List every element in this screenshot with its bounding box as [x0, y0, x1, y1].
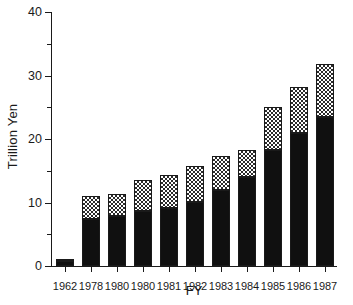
bar-segment-lower	[264, 150, 282, 266]
bar-segment-lower	[160, 208, 178, 266]
y-axis-tick-minor	[47, 171, 51, 172]
plot-area: 010203040 196219781980198019811982198319…	[51, 12, 337, 266]
bar-segment-lower	[134, 211, 152, 266]
bar-segment-lower	[186, 202, 204, 266]
bar-segment-upper	[56, 259, 74, 261]
y-axis-tick-major	[45, 12, 51, 13]
x-axis-tick	[273, 266, 274, 272]
bar-segment-lower	[212, 190, 230, 266]
x-axis-tick	[143, 266, 144, 272]
y-axis-tick-major	[45, 203, 51, 204]
y-axis-tick-label: 20	[28, 132, 42, 146]
chart-figure: Trillion Yen 010203040 19621978198019801…	[0, 0, 353, 305]
bar-segment-lower	[316, 117, 334, 266]
bar[interactable]	[56, 259, 74, 266]
y-axis-label: Trillion Yen	[0, 0, 26, 272]
bar[interactable]	[108, 194, 126, 266]
bar[interactable]	[212, 156, 230, 266]
x-axis-tick	[195, 266, 196, 272]
bar[interactable]	[134, 180, 152, 266]
bar-segment-lower	[82, 219, 100, 266]
y-axis-tick-label: 10	[28, 196, 42, 210]
bar-segment-upper	[134, 180, 152, 211]
bar-segment-lower	[290, 133, 308, 266]
y-axis-line	[51, 12, 52, 267]
y-axis-tick-major	[45, 266, 51, 267]
x-axis-tick	[247, 266, 248, 272]
y-axis-tick-major	[45, 76, 51, 77]
bar-segment-upper	[160, 175, 178, 207]
y-axis-tick-minor	[47, 107, 51, 108]
y-axis-tick-label: 0	[35, 259, 42, 273]
x-axis-tick	[325, 266, 326, 272]
x-axis-label: FY	[51, 283, 337, 298]
bar-segment-upper	[238, 150, 256, 177]
bar-segment-upper	[316, 64, 334, 117]
bar[interactable]	[316, 64, 334, 266]
x-axis-tick	[169, 266, 170, 272]
bar-segment-upper	[290, 87, 308, 133]
bar-segment-lower	[108, 216, 126, 266]
bar[interactable]	[160, 175, 178, 266]
bar-segment-upper	[82, 196, 100, 219]
y-axis-label-text: Trillion Yen	[6, 103, 21, 169]
x-axis-tick	[117, 266, 118, 272]
bar[interactable]	[290, 87, 308, 266]
bar-segment-upper	[108, 194, 126, 216]
bar-segment-lower	[238, 177, 256, 266]
bar[interactable]	[82, 196, 100, 266]
y-axis-tick-label: 40	[28, 5, 42, 19]
x-axis-line	[51, 266, 337, 267]
x-axis-tick	[221, 266, 222, 272]
bar-segment-upper	[264, 107, 282, 150]
bar[interactable]	[264, 107, 282, 266]
bar-segment-upper	[212, 156, 230, 190]
bar-segment-upper	[186, 166, 204, 202]
y-axis-tick-label: 30	[28, 69, 42, 83]
bar[interactable]	[186, 166, 204, 266]
x-axis-tick	[65, 266, 66, 272]
bar[interactable]	[238, 150, 256, 266]
y-axis-tick-minor	[47, 44, 51, 45]
bar-segment-lower	[56, 261, 74, 266]
y-axis-tick-major	[45, 139, 51, 140]
x-axis-tick	[299, 266, 300, 272]
y-axis-tick-minor	[47, 234, 51, 235]
x-axis-tick	[91, 266, 92, 272]
